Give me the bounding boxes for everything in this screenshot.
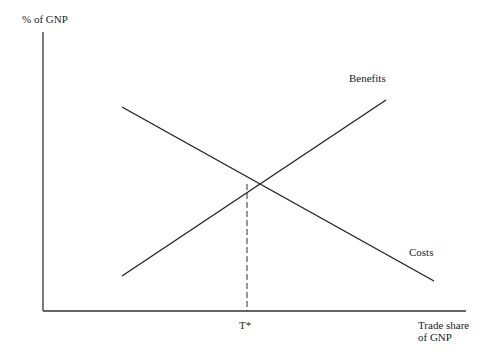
benefits-line — [122, 100, 386, 276]
chart-canvas — [0, 0, 487, 356]
x-axis-label-line1: Trade share — [418, 319, 469, 331]
x-axis-label-line2: of GNP — [418, 331, 452, 343]
costs-line — [122, 107, 434, 281]
t-star-label: T* — [239, 319, 251, 331]
costs-label: Costs — [409, 246, 433, 258]
y-axis-label: % of GNP — [22, 13, 68, 25]
benefits-label: Benefits — [349, 72, 386, 84]
